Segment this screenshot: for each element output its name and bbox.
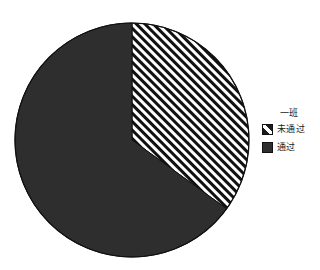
legend-item-passed[interactable]: 通过 bbox=[262, 141, 318, 154]
legend-title: 一班 bbox=[262, 108, 318, 119]
legend: 一班 未通过 通过 bbox=[262, 108, 318, 159]
legend-item-not-passed[interactable]: 未通过 bbox=[262, 123, 318, 136]
solid-swatch-icon bbox=[262, 142, 273, 153]
legend-label-passed: 通过 bbox=[277, 142, 296, 153]
pie-chart-figure: 一班 未通过 通过 bbox=[0, 0, 320, 270]
hatched-swatch-icon bbox=[262, 124, 273, 135]
pie-slices bbox=[15, 23, 249, 257]
legend-label-not-passed: 未通过 bbox=[277, 124, 305, 135]
